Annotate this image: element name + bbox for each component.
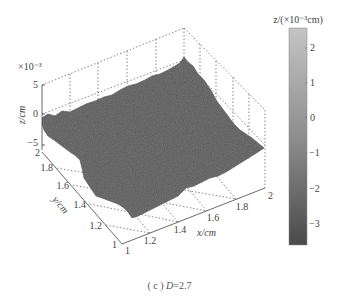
y-tick: 1 — [112, 239, 117, 250]
surface-plot: 5 0 −5 ×10⁻³ z/cm 2 1.8 1.6 1.4 1.2 1 y/… — [0, 0, 339, 298]
x-tick: 1.8 — [236, 201, 249, 212]
z-tick: 0 — [33, 108, 38, 119]
colorbar-tick: −2 — [309, 183, 320, 194]
x-tick: 1 — [125, 245, 130, 256]
y-axis-label: y/cm — [50, 193, 71, 215]
colorbar: z/(×10⁻³cm) 2 1 0 −1 −2 −3 — [273, 14, 323, 245]
colorbar-tick: 0 — [310, 112, 315, 123]
y-tick: 1.6 — [57, 180, 70, 191]
colorbar-tick: −1 — [309, 147, 320, 158]
z-axis-label: z/cm — [16, 106, 27, 125]
colorbar-label: z/(×10⁻³cm) — [273, 14, 323, 26]
y-tick: 1.4 — [74, 199, 87, 210]
z-tick: 5 — [33, 79, 38, 90]
figure-caption: ( c ) D=2.7 — [0, 280, 339, 291]
y-tick: 2 — [35, 147, 40, 158]
z-axis: 5 0 −5 ×10⁻³ z/cm — [16, 61, 45, 150]
x-tick: 2 — [268, 190, 273, 201]
z-multiplier: ×10⁻³ — [18, 61, 42, 72]
x-axis-label: x/cm — [196, 227, 216, 238]
colorbar-tick: −3 — [309, 218, 320, 229]
fractal-surface — [42, 57, 264, 218]
y-tick: 1.8 — [41, 162, 54, 173]
colorbar-tick: 1 — [310, 77, 315, 88]
colorbar-tick: 2 — [310, 42, 315, 53]
caption-value: =2.7 — [173, 280, 191, 291]
x-tick: 1.2 — [144, 235, 157, 246]
x-tick: 1.4 — [174, 224, 187, 235]
caption-prefix: ( c ) — [148, 280, 167, 291]
y-tick: 1.2 — [90, 220, 103, 231]
x-tick: 1.6 — [207, 212, 220, 223]
